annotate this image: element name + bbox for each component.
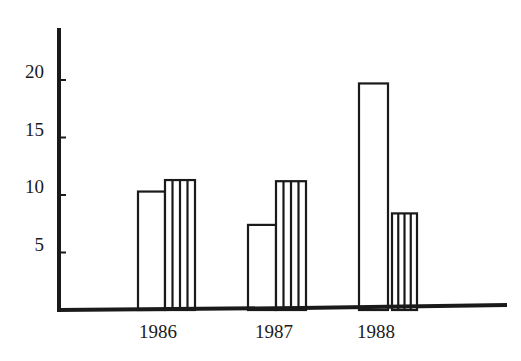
bar-group-1987 [248, 181, 306, 310]
x-axis-labels: 198619871988 [139, 321, 395, 342]
bar-group-1986 [138, 180, 195, 310]
y-tick-label: 20 [25, 61, 44, 82]
chart-canvas: 5101520 198619871988 [0, 0, 521, 361]
y-tick-label: 5 [35, 234, 45, 255]
bar-open-1986 [138, 192, 165, 310]
x-tick-label-1988: 1988 [357, 321, 395, 342]
bar-open-1988 [359, 83, 388, 310]
y-tick-label: 10 [25, 176, 44, 197]
x-tick-label-1987: 1987 [255, 321, 293, 342]
y-tick-label: 15 [25, 119, 44, 140]
x-tick-label-1986: 1986 [139, 321, 177, 342]
bar-chart: 5101520 198619871988 [0, 0, 521, 361]
bars-layer [138, 83, 417, 310]
bar-open-1987 [248, 225, 276, 310]
bar-group-1988 [359, 83, 417, 310]
